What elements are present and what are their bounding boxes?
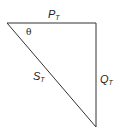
label-reactive-power: QT bbox=[100, 73, 114, 86]
label-angle-theta: θ bbox=[26, 27, 31, 37]
label-apparent-power: ST bbox=[33, 70, 45, 83]
label-real-power: PT bbox=[48, 8, 60, 21]
power-triangle-diagram: PT QT ST θ bbox=[0, 0, 117, 135]
side-apparent-power bbox=[7, 23, 96, 127]
